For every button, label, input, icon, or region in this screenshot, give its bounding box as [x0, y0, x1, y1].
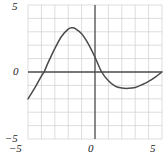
chart-plot-area [0, 0, 164, 162]
x-axis-tick-label-zero: 0 [88, 143, 93, 154]
x-axis-tick-label-left: −5 [9, 143, 22, 154]
chart-figure: 5 0 −5 −5 0 5 [0, 0, 164, 162]
y-axis-tick-label-top: 5 [12, 1, 17, 12]
x-axis-tick-label-right: 5 [150, 143, 155, 154]
y-axis-tick-label-zero: 0 [13, 66, 18, 77]
figure-caption [0, 157, 164, 162]
